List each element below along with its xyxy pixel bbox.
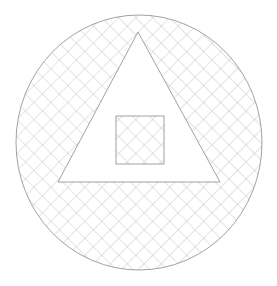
- technical-drawing-figure: Cross-hatched circle containing unfilled…: [0, 0, 277, 286]
